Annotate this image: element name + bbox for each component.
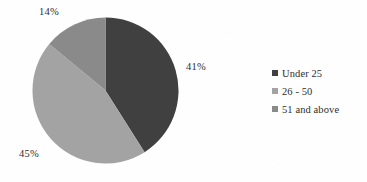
legend-item-label: 51 and above <box>282 104 339 115</box>
legend-item-label: 26 - 50 <box>282 86 312 97</box>
legend-item[interactable]: Under 25 <box>272 64 364 82</box>
pie-chart-figure: 41% 45% 14% Under 2526 - 5051 and above <box>0 0 367 182</box>
legend-swatch-icon <box>272 106 278 112</box>
legend-item-label: Under 25 <box>282 68 322 79</box>
data-label-26-50: 45% <box>19 148 39 159</box>
pie-slice-group <box>32 17 178 163</box>
legend-swatch-icon <box>272 88 278 94</box>
legend-swatch-icon <box>272 70 278 76</box>
pie-chart-svg <box>32 17 179 164</box>
chart-legend: Under 2526 - 5051 and above <box>272 64 364 118</box>
data-label-51-and-above: 14% <box>39 6 59 17</box>
pie-chart-plot-area <box>32 17 179 164</box>
legend-item[interactable]: 26 - 50 <box>272 82 364 100</box>
data-label-under-25: 41% <box>186 61 206 72</box>
legend-item[interactable]: 51 and above <box>272 100 364 118</box>
